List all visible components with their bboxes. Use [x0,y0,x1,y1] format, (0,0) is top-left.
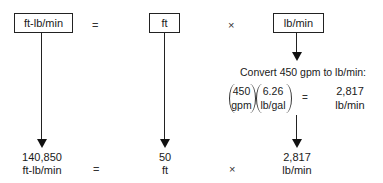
factor2-denominator: lb/gal [256,99,290,112]
box-ft: ft [149,13,180,33]
box-lb-min: lb/min [273,13,324,33]
flow-value: 2,817 [272,151,322,164]
conversion-result-unit: lb/min [330,99,370,112]
arrowhead-left-icon [37,139,47,148]
factor1-numerator: 450 [229,85,254,98]
result-power-unit: ft-lb/min [12,164,72,177]
head-unit: ft [145,164,185,177]
arrow-line-middle [164,33,165,141]
times-sign-bottom: × [229,163,235,175]
equals-sign-top: = [92,19,98,31]
arrow-line-right-lower [296,115,297,141]
arrow-line-right-upper [296,33,297,53]
conversion-title: Convert 450 gpm to lb/min: [228,66,378,79]
head-value: 50 [145,151,185,164]
factor2-numerator: 6.26 [256,85,290,98]
conversion-result-value: 2,817 [330,85,370,98]
conversion-equals: = [302,92,308,103]
arrowhead-middle-icon [160,139,170,148]
flow-unit: lb/min [272,164,322,177]
result-power-value: 140,850 [12,151,72,164]
factor1-denominator: gpm [229,99,254,112]
box-ft-lb-min: ft-lb/min [14,13,73,33]
times-sign-top: × [228,19,234,31]
arrowhead-right-upper-icon [292,52,302,61]
arrowhead-right-lower-icon [292,139,302,148]
equals-sign-bottom: = [93,163,99,175]
arrow-line-left [41,33,42,141]
